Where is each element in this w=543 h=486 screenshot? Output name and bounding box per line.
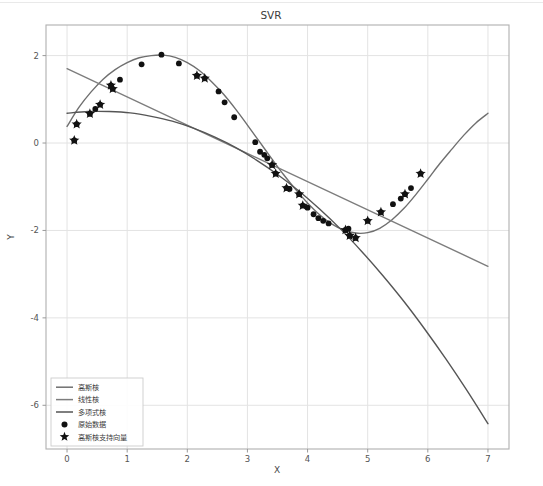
- data-point-marker: [139, 61, 145, 67]
- chart-title: SVR: [260, 9, 281, 21]
- matplotlib-figure: SVR 01234567 20-2-4-6 X Y 高斯核线性核多项式核原始数据…: [0, 0, 543, 486]
- legend-item-label: 多项式核: [78, 408, 106, 417]
- x-tick-label: 2: [185, 454, 190, 464]
- y-tick-label: -6: [31, 400, 39, 410]
- data-point-marker: [222, 99, 228, 105]
- data-point-marker: [176, 61, 182, 67]
- legend-item-label: 高斯核: [78, 383, 99, 392]
- y-tick-label: 0: [34, 138, 39, 148]
- y-tick-label: -2: [31, 225, 39, 235]
- data-point-marker: [264, 155, 270, 161]
- y-axis-label: Y: [6, 234, 16, 241]
- legend-item-label: 线性核: [78, 395, 99, 404]
- x-tick-label: 1: [124, 454, 129, 464]
- x-tick-label: 7: [485, 454, 490, 464]
- data-point-marker: [311, 211, 317, 217]
- data-point-marker: [390, 201, 396, 207]
- svr-chart: SVR 01234567 20-2-4-6 X Y 高斯核线性核多项式核原始数据…: [0, 0, 543, 486]
- chart-legend[interactable]: 高斯核线性核多项式核原始数据高斯核支持向量: [51, 378, 143, 446]
- x-tick-label: 3: [245, 454, 250, 464]
- legend-item-label: 高斯核支持向量: [78, 433, 127, 442]
- data-point-marker: [92, 106, 98, 112]
- y-tick-label: 2: [34, 51, 39, 61]
- x-tick-label: 4: [305, 454, 310, 464]
- data-point-marker: [216, 89, 222, 95]
- data-point-marker: [326, 221, 332, 227]
- data-point-marker: [252, 139, 258, 145]
- data-point-marker: [408, 185, 414, 191]
- legend-circle-swatch: [62, 421, 68, 427]
- page-top-rule: [0, 2, 543, 3]
- data-point-marker: [159, 52, 165, 58]
- data-point-marker: [231, 114, 237, 120]
- data-point-marker: [320, 218, 326, 224]
- x-tick-label: 5: [365, 454, 370, 464]
- legend-item-label: 原始数据: [78, 420, 106, 429]
- x-tick-label: 6: [425, 454, 430, 464]
- x-axis-label: X: [274, 465, 280, 475]
- x-tick-label: 0: [64, 454, 69, 464]
- y-tick-label: -4: [31, 313, 39, 323]
- data-point-marker: [117, 77, 123, 83]
